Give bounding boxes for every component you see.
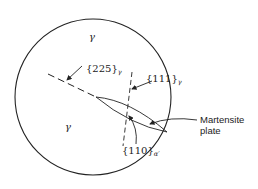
gamma-label-top: γ <box>89 32 95 42</box>
habit-plane-label: {225}γ <box>86 64 122 76</box>
martensite-plate <box>96 97 167 132</box>
martensite-110-label: {110}α′ <box>122 146 160 158</box>
austenite-111-trace <box>123 72 132 146</box>
martensite-plate-label-line1: Martensite <box>200 115 244 125</box>
austenite-111-label: {111}γ <box>146 74 182 86</box>
habit-plane-trace <box>48 74 96 97</box>
martensite-plate-arrow <box>150 119 197 124</box>
gamma-label-bottom: γ <box>65 122 71 132</box>
habit-plane-arrow <box>67 66 82 80</box>
martensite-plate-label-line2: plate <box>200 126 221 136</box>
martensite-diagram <box>0 0 258 189</box>
